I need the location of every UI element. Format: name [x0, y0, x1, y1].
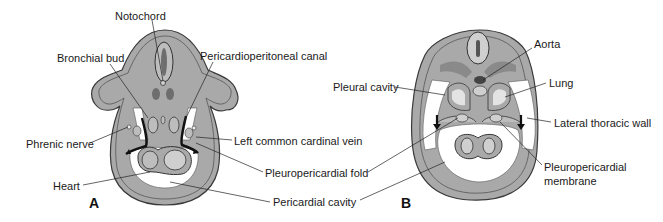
label-notochord: Notochord: [115, 10, 166, 22]
label-heart: Heart: [53, 180, 80, 192]
panel-letter-b: B: [401, 195, 411, 211]
panel-letter-a: A: [89, 195, 99, 211]
label-pleuropericardial-fold: Pleuropericardial fold: [265, 167, 368, 179]
label-pericardioperitoneal-canal: Pericardioperitoneal canal: [200, 50, 327, 62]
label-phrenic-nerve: Phrenic nerve: [26, 138, 94, 150]
label-lateral-thoracic-wall: Lateral thoracic wall: [554, 117, 651, 129]
notochord-dot: [161, 81, 166, 86]
panel-b-embryo: [412, 30, 538, 200]
label-pericardial-cavity: Pericardial cavity: [273, 196, 356, 208]
embryo-cross-section-diagram: [0, 0, 663, 222]
label-pleural-cavity: Pleural cavity: [333, 81, 398, 93]
label-pleuropericardial-membrane-1: Pleuropericardial: [544, 161, 627, 173]
label-left-common-cardinal-vein: Left common cardinal vein: [234, 135, 362, 147]
label-pleuropericardial-membrane-2: membrane: [544, 175, 597, 187]
label-lung: Lung: [549, 77, 573, 89]
label-aorta: Aorta: [534, 38, 560, 50]
label-bronchial-bud: Bronchial bud: [57, 52, 124, 64]
